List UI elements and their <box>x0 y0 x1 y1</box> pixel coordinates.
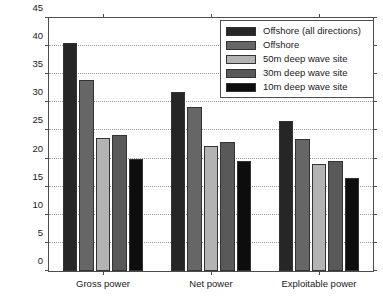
legend-item-label: 50m deep wave site <box>263 54 348 64</box>
y-tick-mark-right <box>373 214 377 215</box>
bar <box>171 92 186 271</box>
y-tick-label: 25 <box>32 114 43 125</box>
legend-item-label: 10m deep wave site <box>263 82 348 92</box>
y-tick-mark-right <box>373 17 377 18</box>
y-tick-mark-right <box>373 129 377 130</box>
bar <box>63 43 78 271</box>
bar <box>237 161 252 271</box>
y-tick-mark <box>45 186 49 187</box>
bar <box>295 139 310 271</box>
x-tick-label: Net power <box>189 278 232 289</box>
y-tick-mark <box>45 17 49 18</box>
legend-swatch-icon <box>226 69 256 78</box>
y-tick-label: 0 <box>38 255 43 266</box>
x-tick-label: Exploitable power <box>282 278 357 289</box>
y-tick-label: 40 <box>32 30 43 41</box>
legend-item: 30m deep wave site <box>226 66 369 80</box>
x-tick-mark <box>103 271 104 275</box>
legend-item-label: 30m deep wave site <box>263 68 348 78</box>
y-tick-mark <box>45 270 49 271</box>
legend-swatch-icon <box>226 27 256 36</box>
x-tick-mark-top <box>319 14 320 18</box>
legend-item: 50m deep wave site <box>226 52 369 66</box>
y-tick-mark <box>45 158 49 159</box>
legend-swatch-icon <box>226 41 256 50</box>
legend-swatch-icon <box>226 83 256 92</box>
x-tick-mark-top <box>103 14 104 18</box>
bar <box>328 161 343 271</box>
legend-item: Offshore (all directions) <box>226 24 369 38</box>
y-tick-mark <box>45 45 49 46</box>
y-tick-mark-right <box>373 242 377 243</box>
bar <box>345 178 360 271</box>
bar <box>204 146 219 271</box>
x-tick-mark <box>319 271 320 275</box>
bar <box>112 135 127 271</box>
y-tick-mark-right <box>373 270 377 271</box>
y-tick-mark <box>45 129 49 130</box>
y-tick-mark <box>45 242 49 243</box>
bar <box>187 107 202 271</box>
y-tick-mark <box>45 214 49 215</box>
x-tick-mark <box>211 271 212 275</box>
y-tick-mark-right <box>373 101 377 102</box>
legend-item: Offshore <box>226 38 369 52</box>
bar <box>312 164 327 271</box>
y-tick-mark-right <box>373 158 377 159</box>
x-tick-label: Gross power <box>76 278 130 289</box>
y-tick-mark <box>45 101 49 102</box>
chart-legend: Offshore (all directions)Offshore50m dee… <box>220 20 374 98</box>
y-tick-label: 10 <box>32 198 43 209</box>
y-tick-label: 30 <box>32 86 43 97</box>
y-tick-label: 5 <box>38 226 43 237</box>
legend-item: 10m deep wave site <box>226 80 369 94</box>
chart-figure: Average incident wave power (kW) 0510152… <box>0 0 383 304</box>
legend-item-label: Offshore <box>263 40 299 50</box>
bar <box>79 80 94 271</box>
y-tick-label: 35 <box>32 58 43 69</box>
y-tick-mark-right <box>373 186 377 187</box>
bar <box>279 121 294 271</box>
legend-swatch-icon <box>226 55 256 64</box>
y-tick-mark <box>45 73 49 74</box>
bar <box>220 142 235 271</box>
bar <box>96 138 111 271</box>
legend-item-label: Offshore (all directions) <box>263 26 361 36</box>
bar <box>129 159 144 271</box>
y-tick-label: 20 <box>32 142 43 153</box>
y-tick-label: 15 <box>32 170 43 181</box>
y-tick-label: 45 <box>32 2 43 13</box>
x-tick-mark-top <box>211 14 212 18</box>
